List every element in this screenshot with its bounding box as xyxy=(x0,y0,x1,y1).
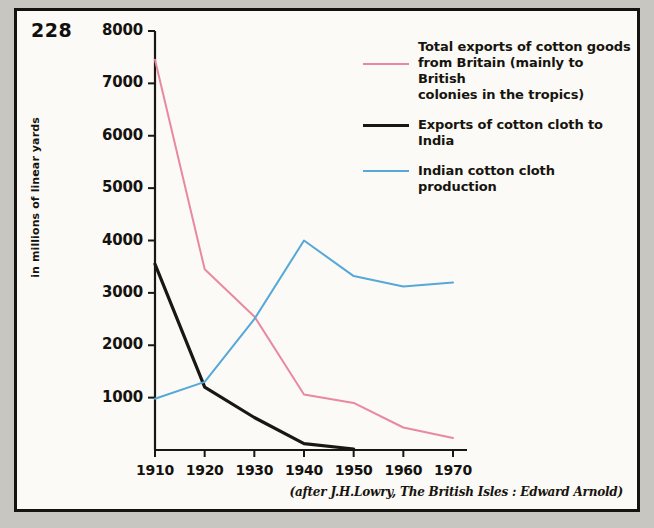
y-tick-label: 8000 xyxy=(87,21,143,39)
legend-label: Indian cotton cloth production xyxy=(418,163,631,195)
series-line-2 xyxy=(155,264,354,449)
legend-label-line: Exports of cotton cloth to India xyxy=(418,117,631,149)
y-tick-label: 5000 xyxy=(87,178,143,196)
legend-label-line: Total exports of cotton goods xyxy=(418,39,631,55)
x-tick-label: 1940 xyxy=(279,462,329,478)
y-tick-label: 3000 xyxy=(87,283,143,301)
legend-label: Exports of cotton cloth to India xyxy=(418,117,631,149)
y-tick-label: 4000 xyxy=(87,231,143,249)
legend-item-exports-cotton-cloth-india: Exports of cotton cloth to India xyxy=(361,117,631,149)
y-tick-label: 1000 xyxy=(87,388,143,406)
legend: Total exports of cotton goodsfrom Britai… xyxy=(361,39,631,209)
legend-swatch-icon xyxy=(361,163,409,179)
x-tick-label: 1920 xyxy=(180,462,230,478)
legend-label: Total exports of cotton goodsfrom Britai… xyxy=(418,39,631,103)
y-tick-label: 2000 xyxy=(87,335,143,353)
legend-label-line: from Britain (mainly to British xyxy=(418,55,631,87)
figure-frame: 228 in millions of linear yards 10002000… xyxy=(14,8,640,512)
legend-label-line: colonies in the tropics) xyxy=(418,87,631,103)
x-tick-label: 1930 xyxy=(229,462,279,478)
legend-item-indian-cotton-cloth-production: Indian cotton cloth production xyxy=(361,163,631,195)
y-tick-label: 7000 xyxy=(87,73,143,91)
x-tick-label: 1910 xyxy=(130,462,180,478)
x-tick-label: 1950 xyxy=(329,462,379,478)
legend-label-line: Indian cotton cloth production xyxy=(418,163,631,195)
legend-swatch-icon xyxy=(361,39,409,55)
legend-item-total-exports-britain: Total exports of cotton goodsfrom Britai… xyxy=(361,39,631,103)
legend-swatch-icon xyxy=(361,117,409,133)
x-tick-label: 1970 xyxy=(428,462,478,478)
x-tick-label: 1960 xyxy=(378,462,428,478)
source-caption: (after J.H.Lowry, The British Isles : Ed… xyxy=(290,485,623,499)
y-tick-label: 6000 xyxy=(87,126,143,144)
